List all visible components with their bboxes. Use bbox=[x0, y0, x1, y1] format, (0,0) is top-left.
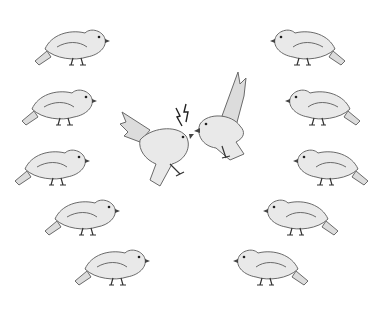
bird-icon bbox=[270, 30, 345, 65]
bird-icon bbox=[15, 150, 90, 185]
bird-icon bbox=[285, 90, 360, 125]
fighting-bird-right bbox=[194, 72, 246, 160]
left-bird-column bbox=[15, 30, 150, 285]
bird-icon bbox=[75, 250, 150, 285]
bird-icon bbox=[22, 90, 97, 125]
bird-icon bbox=[293, 150, 368, 185]
bird-icon bbox=[35, 30, 110, 65]
lightning-icon bbox=[176, 104, 188, 126]
bird-icon bbox=[233, 250, 308, 285]
fighting-bird-left bbox=[120, 112, 194, 186]
bird-icon bbox=[263, 200, 338, 235]
bird-icon bbox=[45, 200, 120, 235]
right-bird-column bbox=[233, 30, 368, 285]
illustration-canvas bbox=[0, 0, 380, 327]
